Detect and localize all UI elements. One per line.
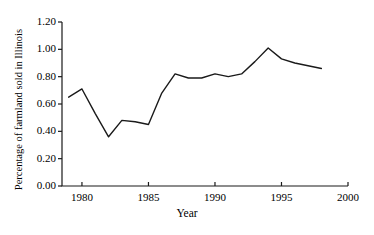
axis-lines [62,22,348,186]
y-axis-tick-label: 1.00 [24,43,56,54]
y-axis-tick-label: 0.60 [24,98,56,109]
y-axis-tick-label: 1.20 [24,16,56,27]
data-series-line [69,48,322,137]
y-axis-tick-label: 0.40 [24,125,56,136]
y-axis-title: Percentage of farmland sold in Illinois [13,20,24,200]
y-axis-tick-label: 0.00 [24,180,56,191]
x-axis-tick-label: 1990 [190,192,240,203]
y-axis-tick-label: 0.20 [24,153,56,164]
x-axis-tick-label: 2000 [323,192,373,203]
x-axis-title: Year [0,207,374,219]
chart-container: 0.000.200.400.600.801.001.20 19801985199… [0,0,374,235]
x-axis-tick-label: 1985 [123,192,173,203]
x-axis-tick-label: 1995 [256,192,306,203]
y-axis-tick-label: 0.80 [24,71,56,82]
x-axis-tick-label: 1980 [57,192,107,203]
